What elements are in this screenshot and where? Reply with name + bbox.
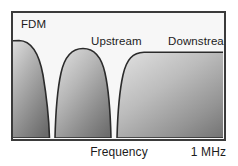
downstream-band-label: Downstream [168,35,226,48]
spectrum-curves [13,13,223,138]
upstream-band-label: Upstream [91,35,142,48]
x-axis-max-tick-label: 1 MHz [191,145,226,159]
fdm-title-label: FDM [21,18,46,31]
plot-frame: FDM Upstream Downstream [11,11,226,141]
fdm-spectrum-figure: FDM Upstream Downstream Frequency 1 MHz [0,0,238,166]
band-shape-downstream [117,52,223,138]
band-shape-upstream [55,49,111,139]
band-shape-pots [13,41,50,139]
